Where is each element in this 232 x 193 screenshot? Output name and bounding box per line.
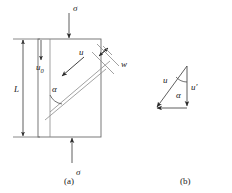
slip-band-lower-edge	[45, 69, 106, 120]
label-length-L: L	[14, 85, 19, 94]
label-sigma-top: σ	[73, 4, 77, 13]
band-width-tick	[103, 46, 112, 55]
angle-arc-alpha-a	[50, 95, 62, 104]
displacement-arrow-u	[62, 57, 84, 76]
figure-drawing	[0, 0, 232, 193]
vector-u-panel-b	[157, 66, 187, 107]
label-vector-u-b: u	[163, 76, 168, 85]
label-displacement-u: u	[79, 48, 84, 57]
caption-panel-b: (b)	[180, 177, 191, 186]
specimen-rectangle	[38, 39, 101, 137]
label-displacement-u0: u0	[36, 63, 44, 74]
label-angle-alpha-a: α	[52, 85, 57, 94]
label-sigma-bottom: σ	[76, 168, 80, 177]
label-u0-subscript: 0	[41, 67, 44, 74]
figure-container: σ σ L u0 u w α u u′ α (a) (b)	[0, 0, 232, 193]
caption-panel-a: (a)	[64, 177, 74, 186]
label-band-width-w: w	[121, 60, 127, 69]
band-width-guide-2	[92, 52, 114, 74]
label-vector-u-prime-b: u′	[191, 83, 197, 92]
label-angle-alpha-b: α	[176, 91, 181, 100]
